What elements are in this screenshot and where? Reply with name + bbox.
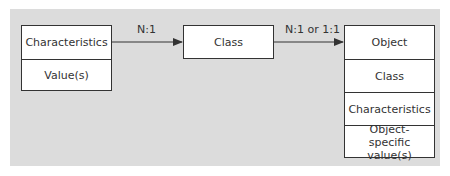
object-specific-values-cell: Object-specific value(s)	[345, 125, 434, 158]
characteristics-cell: Characteristics	[22, 26, 111, 59]
object-box: Object Class Characteristics Object-spec…	[344, 25, 435, 158]
arrow-label-n-1: N:1	[137, 23, 156, 36]
class-box: Class	[183, 25, 274, 59]
class-cell: Class	[184, 26, 273, 58]
object-class-cell: Class	[345, 59, 434, 92]
arrow-label-n1-or-11: N:1 or 1:1	[285, 23, 340, 36]
characteristics-box: Characteristics Value(s)	[21, 25, 112, 91]
object-cell: Object	[345, 26, 434, 59]
values-cell: Value(s)	[22, 59, 111, 91]
object-characteristics-cell: Characteristics	[345, 92, 434, 125]
